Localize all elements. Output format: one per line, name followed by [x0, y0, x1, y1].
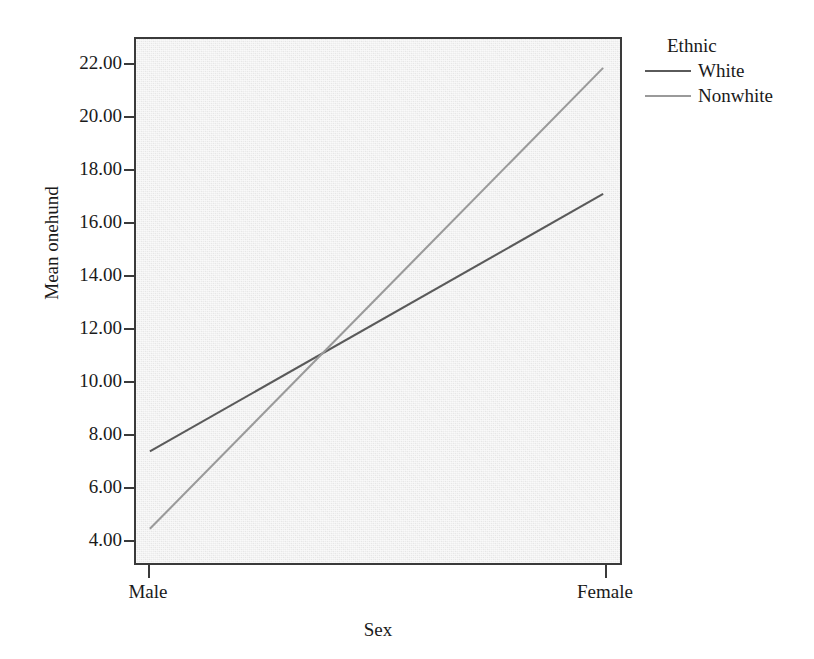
legend-entry-nonwhite: Nonwhite [645, 83, 810, 108]
y-axis-tick-mark [124, 434, 134, 436]
y-axis-tick-label: 6.00 [89, 477, 122, 496]
y-axis-tick-mark [124, 116, 134, 118]
x-axis-tick-mark [605, 565, 607, 578]
y-axis-tick-label: 8.00 [89, 424, 122, 443]
legend-entries: WhiteNonwhite [645, 58, 810, 108]
x-axis-title: Sex [134, 619, 622, 641]
plot-panel [134, 37, 622, 565]
y-axis-tick-label: 10.00 [79, 371, 122, 390]
legend-title: Ethnic [667, 34, 810, 58]
y-axis-tick-mark [124, 222, 134, 224]
legend-entry-label: Nonwhite [698, 85, 773, 107]
y-axis-tick-label: 20.00 [79, 106, 122, 125]
y-axis-title: Mean onehund [41, 153, 63, 333]
y-axis-tick-label: 16.00 [79, 212, 122, 231]
y-axis-tick-label: 12.00 [79, 318, 122, 337]
y-axis-tick-label: 14.00 [79, 265, 122, 284]
x-axis-tick-label: Male [128, 581, 167, 603]
y-axis-tick-label: 18.00 [79, 159, 122, 178]
x-axis-tick-mark [148, 565, 150, 578]
y-axis-tick-mark [124, 275, 134, 277]
y-axis-tick-mark [124, 63, 134, 65]
legend-line-swatch [645, 95, 691, 97]
interaction-plot-figure: 4.006.008.0010.0012.0014.0016.0018.0020.… [0, 0, 814, 659]
legend: Ethnic WhiteNonwhite [645, 34, 810, 108]
y-axis-tick-mark [124, 487, 134, 489]
y-axis-tick-label: 4.00 [89, 530, 122, 549]
y-axis-tick-mark [124, 328, 134, 330]
data-series-layer [136, 39, 620, 563]
y-axis-tick-mark [124, 381, 134, 383]
legend-line-swatch [645, 70, 691, 72]
y-axis-tick-label: 22.00 [79, 53, 122, 72]
series-line-white [150, 194, 603, 451]
y-axis-tick-mark [124, 540, 134, 542]
legend-entry-white: White [645, 58, 810, 83]
x-axis-tick-label: Female [577, 581, 633, 603]
legend-entry-label: White [698, 60, 744, 82]
y-axis-tick-mark [124, 169, 134, 171]
series-line-nonwhite [150, 68, 603, 529]
